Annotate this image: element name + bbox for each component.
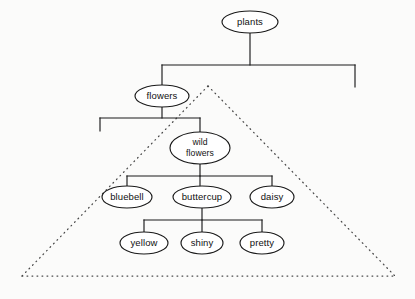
node-plants-label: plants: [237, 16, 263, 27]
node-wild-flowers-label-line2: flowers: [186, 148, 214, 158]
node-pretty-label: pretty: [250, 237, 275, 248]
node-wild-flowers[interactable]: wild flowers: [170, 132, 230, 164]
node-bluebell-label: bluebell: [110, 191, 144, 202]
node-daisy[interactable]: daisy: [250, 186, 294, 208]
tree-diagram: plants flowers wild flowers bluebell but…: [0, 0, 415, 299]
node-yellow-label: yellow: [131, 237, 158, 248]
node-daisy-label: daisy: [261, 191, 284, 202]
node-flowers[interactable]: flowers: [135, 85, 189, 107]
node-buttercup-label: buttercup: [182, 191, 223, 202]
node-flowers-label: flowers: [147, 90, 178, 101]
tree-nodes: plants flowers wild flowers bluebell but…: [102, 11, 294, 254]
diagram-canvas: plants flowers wild flowers bluebell but…: [0, 0, 415, 299]
node-buttercup[interactable]: buttercup: [173, 186, 231, 208]
node-bluebell[interactable]: bluebell: [102, 186, 152, 208]
node-plants[interactable]: plants: [222, 11, 278, 33]
dotted-triangle-right-edge: [208, 86, 395, 276]
dotted-triangle-left-edge: [22, 86, 208, 276]
node-yellow[interactable]: yellow: [120, 232, 168, 254]
node-shiny-label: shiny: [191, 237, 214, 248]
node-pretty[interactable]: pretty: [240, 232, 284, 254]
node-shiny[interactable]: shiny: [181, 232, 223, 254]
node-wild-flowers-label-line1: wild: [191, 137, 207, 147]
